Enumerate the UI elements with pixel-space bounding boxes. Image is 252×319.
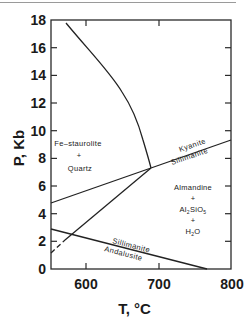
y-tick-6: 6 [38,178,46,194]
y-tick-10: 10 [30,123,46,139]
staurolite-lower-boundary-line [51,168,151,203]
plus-text: + [191,194,196,203]
y-tick-18: 18 [30,12,46,28]
h2o-text: H2O [186,227,201,237]
x-tick-600: 600 [74,276,98,292]
x-tick-800: 800 [220,276,244,292]
y-tick-8: 8 [38,150,46,166]
y-axis-title: P, Kb [10,130,27,166]
y-tick-2: 2 [38,233,46,249]
almandine-text: Almandine [174,183,212,192]
fe-staurolite-text: Fe–staurolite [54,139,101,148]
plus-text: + [77,151,82,160]
phase-diagram: 0 2 4 6 8 10 12 14 16 18 600 700 800 P, … [0,0,252,319]
x-tick-labels: 600 700 800 [74,276,244,292]
lower-reaction-line [65,168,151,240]
fe-staurolite-quartz-label: Fe–staurolite + Quartz [54,139,101,173]
plus-text: + [191,216,196,225]
y-tick-0: 0 [38,261,46,277]
y-tick-16: 16 [30,40,46,56]
y-tick-labels: 0 2 4 6 8 10 12 14 16 18 [30,12,46,277]
y-tick-12: 12 [30,95,46,111]
y-tick-14: 14 [30,67,46,83]
x-tick-700: 700 [147,276,171,292]
x-axis-title-unit: °C [134,300,151,317]
almandine-assemblage-label: Almandine + Al2SiO5 + H2O [174,183,212,237]
metastable-dashed-line [51,240,65,253]
y-tick-4: 4 [38,206,46,222]
x-axis-title-T: T, [118,300,130,317]
quartz-text: Quartz [68,164,92,173]
al2sio5-text: Al2SiO5 [180,205,207,215]
